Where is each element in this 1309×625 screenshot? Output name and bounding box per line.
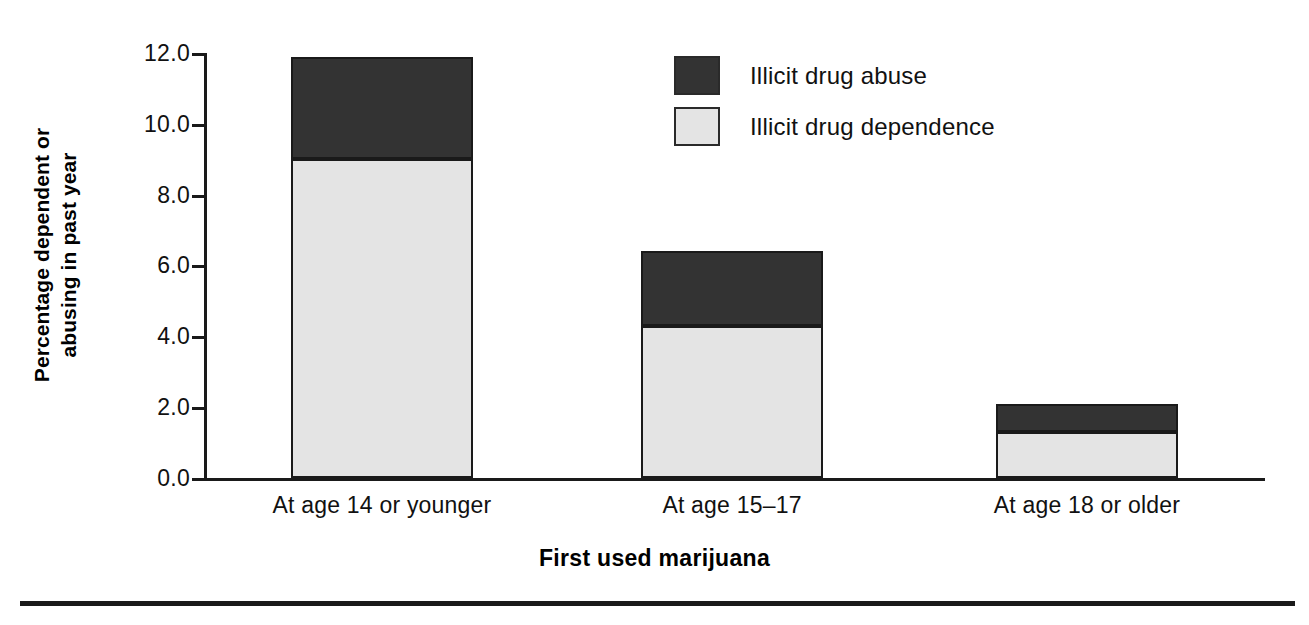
bar-segment-dependence (291, 159, 473, 478)
legend-label: Illicit drug abuse (750, 62, 927, 90)
y-axis-title-line-2: abusing in past year (55, 128, 82, 382)
bar (291, 57, 473, 478)
legend-item-dependence: Illicit drug dependence (674, 101, 995, 152)
y-tick-label: 4.0 (116, 323, 190, 350)
y-tick-mark (192, 195, 206, 198)
footer-rule (20, 601, 1295, 606)
y-axis-tick-labels: 12.0 10.0 8.0 6.0 4.0 2.0 0.0 (110, 0, 190, 625)
bar-segment-abuse (291, 57, 473, 160)
y-tick-mark (192, 53, 206, 56)
y-tick-mark (192, 124, 206, 127)
bar-segment-abuse (641, 251, 823, 325)
y-tick-mark (192, 336, 206, 339)
y-tick-label: 2.0 (116, 394, 190, 421)
dark-swatch-icon (674, 56, 720, 95)
y-tick-mark (192, 407, 206, 410)
bar-segment-dependence (641, 326, 823, 478)
legend-label: Illicit drug dependence (750, 113, 995, 141)
chart-legend: Illicit drug abuse Illicit drug dependen… (674, 50, 995, 152)
legend-item-abuse: Illicit drug abuse (674, 50, 995, 101)
x-tick-label: At age 15–17 (582, 492, 882, 519)
light-swatch-icon (674, 107, 720, 146)
bar (996, 404, 1178, 478)
y-tick-label: 0.0 (116, 465, 190, 492)
bar-segment-dependence (996, 432, 1178, 478)
y-tick-label: 6.0 (116, 252, 190, 279)
x-tick-label: At age 18 or older (937, 492, 1237, 519)
y-axis-title: Percentage dependent or abusing in past … (0, 0, 110, 510)
x-axis-spine (204, 478, 1265, 481)
y-tick-label: 12.0 (116, 40, 190, 67)
y-tick-mark (192, 478, 206, 481)
y-tick-label: 10.0 (116, 111, 190, 138)
x-axis-title: First used marijuana (0, 545, 1309, 572)
x-tick-label: At age 14 or younger (232, 492, 532, 519)
y-tick-label: 8.0 (116, 182, 190, 209)
chart-figure: Percentage dependent or abusing in past … (0, 0, 1309, 625)
bar-segment-abuse (996, 404, 1178, 432)
bar (641, 251, 823, 478)
y-tick-mark (192, 265, 206, 268)
y-axis-title-line-1: Percentage dependent or (28, 128, 55, 382)
